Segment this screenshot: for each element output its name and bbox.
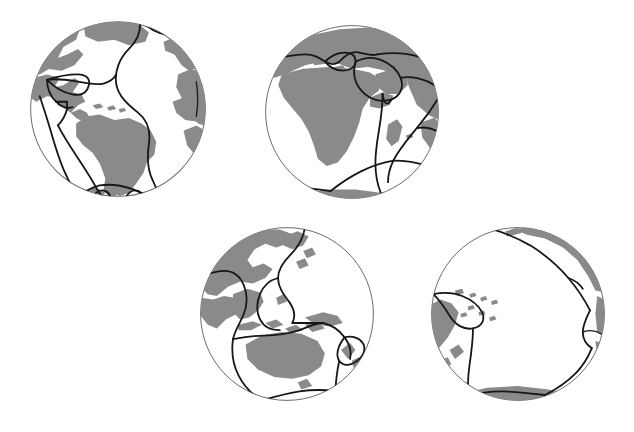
globe-pacific <box>428 224 608 404</box>
globe-pacific-canvas <box>428 224 608 404</box>
globe-atlantic-americas <box>27 18 209 200</box>
globe-atlantic-americas-canvas <box>27 18 209 200</box>
globe-asia-australia <box>197 224 377 404</box>
globe-africa-eurasia-canvas <box>262 22 442 202</box>
globe-africa-eurasia <box>262 22 442 202</box>
globe-asia-australia-canvas <box>197 224 377 404</box>
tectonic-globes-figure: Global tectonic plate boundaries shown o… <box>0 0 634 432</box>
